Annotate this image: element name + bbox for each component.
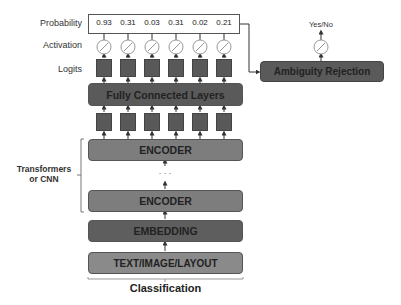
logit-square xyxy=(216,59,232,77)
logit-square xyxy=(168,59,184,77)
encoder-block-top: ENCODER xyxy=(88,139,243,161)
transformers-or-cnn-label: Transformers or CNN xyxy=(12,164,76,184)
feature-square xyxy=(144,113,160,131)
ambiguity-rejection-block: Ambiguity Rejection xyxy=(260,61,384,82)
bracket-label-line1: Transformers xyxy=(12,164,76,174)
ellipsis: . . . xyxy=(150,166,180,176)
logit-square xyxy=(144,59,160,77)
feature-square xyxy=(120,113,136,131)
logit-square xyxy=(96,59,112,77)
feature-square xyxy=(216,113,232,131)
yes-no-output-label: Yes/No xyxy=(300,20,342,29)
logit-square xyxy=(120,59,136,77)
bracket-label-line2: or CNN xyxy=(12,174,76,184)
input-block: TEXT/IMAGE/LAYOUT xyxy=(88,252,243,274)
feature-square xyxy=(96,113,112,131)
feature-square xyxy=(168,113,184,131)
logit-square xyxy=(192,59,208,77)
encoder-block-bottom: ENCODER xyxy=(88,190,243,212)
classification-title: Classification xyxy=(88,282,243,294)
embedding-block: EMBEDDING xyxy=(88,220,243,242)
feature-square xyxy=(192,113,208,131)
fully-connected-layers-block: Fully Connected Layers xyxy=(88,83,243,106)
